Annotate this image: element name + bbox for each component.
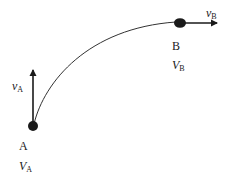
diagram-canvas bbox=[0, 0, 226, 180]
velocity-subscript-a: A bbox=[17, 85, 23, 94]
velocity-subscript-b: B bbox=[211, 12, 216, 21]
potential-subscript-a: A bbox=[26, 165, 32, 174]
point-b-label: B bbox=[172, 40, 180, 52]
point-a-dot bbox=[28, 121, 38, 131]
point-b-dot bbox=[174, 18, 186, 28]
velocity-label-b: vB bbox=[206, 7, 217, 21]
trajectory-curve bbox=[34, 22, 176, 124]
velocity-label-a: vA bbox=[12, 80, 23, 94]
potential-label-b: VB bbox=[172, 59, 185, 73]
potential-label-a: VA bbox=[19, 160, 32, 174]
potential-subscript-b: B bbox=[179, 64, 184, 73]
point-a-label: A bbox=[19, 140, 28, 152]
point-b-name: B bbox=[172, 39, 180, 53]
point-a-name: A bbox=[19, 139, 28, 153]
